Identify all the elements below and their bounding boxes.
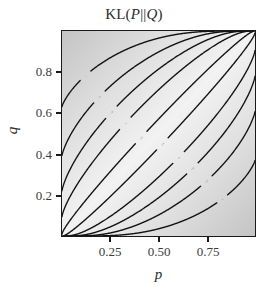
ytick-label: 0.2 — [16, 188, 52, 204]
xtick-label: 0.75 — [186, 244, 230, 260]
title-q-symbol: Q — [147, 6, 158, 22]
page-title: KL(P||Q) — [0, 6, 268, 23]
ytick-mark — [56, 195, 61, 197]
ytick-label: 0.6 — [16, 105, 52, 121]
title-suffix: ) — [158, 6, 163, 22]
y-axis-label: q — [4, 111, 21, 151]
xtick-label: 0.50 — [137, 244, 181, 260]
ytick-mark — [56, 71, 61, 73]
x-axis-label: p — [61, 266, 256, 283]
ytick-label: 0.4 — [16, 147, 52, 163]
ytick-mark — [56, 112, 61, 114]
xtick-label: 0.25 — [88, 244, 132, 260]
xtick-mark — [158, 237, 160, 242]
title-prefix: KL( — [105, 6, 131, 22]
ytick-label: 0.8 — [16, 64, 52, 80]
xtick-mark — [109, 237, 111, 242]
ytick-mark — [56, 154, 61, 156]
plot-area: 0.010.10.250.510.010.10.250.51 — [61, 30, 256, 237]
xtick-mark — [207, 237, 209, 242]
title-p-symbol: P — [131, 6, 140, 22]
contour-figure: KL(P||Q) — [0, 0, 268, 290]
contour-plot-svg: 0.010.10.250.510.010.10.250.51 — [62, 31, 255, 236]
